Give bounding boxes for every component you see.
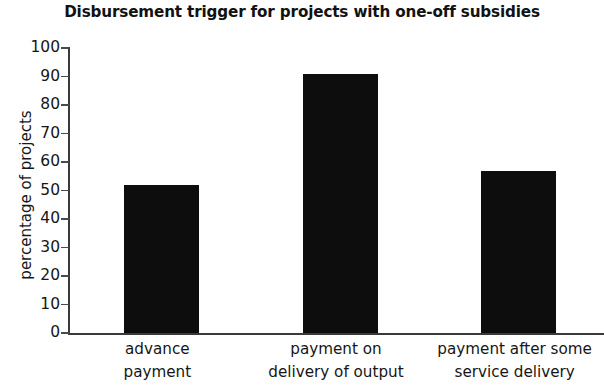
y-axis-tick — [61, 247, 69, 249]
y-axis-tick — [61, 76, 69, 78]
chart-title: Disbursement trigger for projects with o… — [0, 3, 604, 21]
bar — [481, 171, 556, 333]
bar — [303, 74, 378, 333]
y-axis-tick-label: 50 — [14, 181, 60, 199]
y-axis-tick-label: 80 — [14, 95, 60, 113]
y-axis-tick — [61, 304, 69, 306]
x-axis-category-label-line: service delivery — [425, 361, 604, 384]
x-axis-line — [68, 333, 604, 335]
y-axis-tick-labels: 1009080706050403020100 — [8, 0, 60, 389]
y-axis-tick — [61, 190, 69, 192]
x-axis-category-label-line: payment — [68, 361, 247, 384]
y-axis-tick-label: 100 — [14, 38, 60, 56]
y-axis-tick-label: 20 — [14, 266, 60, 284]
x-axis-category-label: payment after someservice delivery — [425, 338, 604, 384]
y-axis-tick — [61, 133, 69, 135]
x-axis-category-label-line: advance — [68, 338, 247, 361]
y-axis-tick-label: 90 — [14, 67, 60, 85]
x-axis-category-label-line: payment after some — [425, 338, 604, 361]
y-axis-tick-label: 0 — [14, 323, 60, 341]
y-axis-tick — [61, 332, 69, 334]
bar-chart: Disbursement trigger for projects with o… — [0, 0, 604, 389]
x-axis-category-label: advancepayment — [68, 338, 247, 384]
x-axis-category-labels: advancepaymentpayment ondelivery of outp… — [68, 338, 604, 389]
y-axis-tick — [61, 161, 69, 163]
y-axis-tick — [61, 104, 69, 106]
bar — [124, 185, 199, 333]
x-axis-category-label-line: payment on — [247, 338, 426, 361]
x-axis-category-label: payment ondelivery of output — [247, 338, 426, 384]
y-axis-tick-label: 10 — [14, 295, 60, 313]
x-axis-category-label-line: delivery of output — [247, 361, 426, 384]
y-axis-tick-label: 30 — [14, 238, 60, 256]
y-axis-tick-label: 60 — [14, 152, 60, 170]
bars-layer — [68, 48, 604, 333]
y-axis-tick — [61, 218, 69, 220]
y-axis-tick-label: 70 — [14, 124, 60, 142]
y-axis-tick — [61, 47, 69, 49]
y-axis-tick — [61, 275, 69, 277]
y-axis-tick-label: 40 — [14, 209, 60, 227]
